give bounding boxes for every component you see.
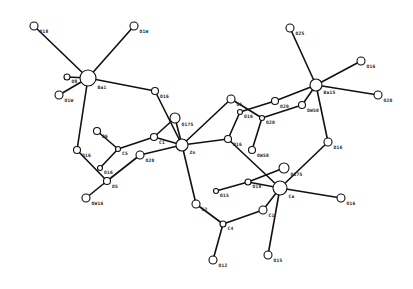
- atom-label: O5: [112, 184, 118, 189]
- atom-label: O15: [220, 193, 229, 198]
- atom-o16: [299, 102, 306, 109]
- atom-o1: [30, 22, 38, 30]
- atom-label: OW50: [257, 153, 269, 158]
- atom-label: O12: [219, 263, 228, 268]
- atom-c1: [116, 147, 121, 152]
- atom-o5: [152, 88, 159, 95]
- atom-label: O5: [237, 102, 243, 107]
- atom-label: O17S: [291, 172, 303, 177]
- atom-label: O16: [82, 153, 91, 158]
- atom-o3: [64, 74, 70, 80]
- atom-o17: [249, 147, 256, 154]
- atom-label: O20: [266, 120, 275, 125]
- atom-o12: [170, 113, 180, 123]
- atom-o18: [286, 24, 294, 32]
- atom-label: O8: [72, 79, 78, 84]
- bond-m1-o6: [77, 78, 88, 150]
- atom-o15: [272, 98, 279, 105]
- atom-label: O16: [367, 64, 376, 69]
- atom-o27: [264, 251, 272, 259]
- atom-label: C2: [202, 207, 208, 212]
- atom-m1: [80, 70, 96, 86]
- atom-o26: [209, 256, 217, 264]
- atom-label: O16: [244, 114, 253, 119]
- atom-layer: [30, 22, 382, 264]
- atom-label: O1W: [65, 98, 74, 103]
- atom-label: O2S: [296, 31, 305, 36]
- atom-label: Zn: [190, 150, 196, 155]
- atom-label: OW50: [307, 108, 319, 113]
- atom-o8: [98, 166, 103, 171]
- atom-o20: [374, 91, 382, 99]
- atom-o23: [214, 189, 219, 194]
- molecular-structure-diagram: Ba1O18O1WO8O1WO16O16C5O6O16O5OW16O20C1O1…: [0, 0, 413, 289]
- atom-c6: [259, 206, 267, 214]
- atom-label: C1: [269, 213, 275, 218]
- atom-m2: [176, 139, 188, 151]
- atom-label: O16: [104, 170, 113, 175]
- bond-c7-o26: [213, 224, 223, 260]
- atom-c4: [260, 116, 265, 121]
- atom-label: O6: [102, 134, 108, 139]
- bond-m2-o14: [182, 139, 228, 145]
- bond-c7-c6: [223, 210, 263, 224]
- atom-label: O20: [384, 98, 393, 103]
- atom-label: O17S: [182, 122, 194, 127]
- atom-label: O16: [334, 145, 343, 150]
- atom-o11: [136, 151, 144, 159]
- atom-o25: [192, 200, 200, 208]
- atom-o4: [55, 91, 63, 99]
- atom-label: C5: [122, 151, 128, 156]
- structure-canvas: Ba1O18O1WO8O1WO16O16C5O6O16O5OW16O20C1O1…: [0, 0, 413, 289]
- atom-label: O20: [146, 158, 155, 163]
- bond-m3-o19: [316, 61, 361, 85]
- atom-o6: [74, 147, 81, 154]
- atom-c3: [238, 110, 243, 115]
- atom-label: O1S: [274, 258, 283, 263]
- atom-label: Ba1S: [324, 90, 336, 95]
- atom-label: O18: [40, 29, 49, 34]
- atom-o19: [357, 57, 365, 65]
- atom-o14: [225, 136, 232, 143]
- atom-label: OW16: [92, 201, 104, 206]
- label-layer: Ba1O18O1WO8O1WO16O16C5O6O16O5OW16O20C1O1…: [40, 29, 393, 268]
- atom-label: O20: [280, 104, 289, 109]
- bond-o22-c5: [248, 168, 284, 182]
- bond-c3-o14: [228, 112, 240, 139]
- atom-label: Ca: [289, 194, 295, 199]
- atom-label: O16: [233, 142, 242, 147]
- bond-o9-o11: [107, 155, 140, 181]
- atom-label: O16: [160, 94, 169, 99]
- atom-o13: [227, 95, 235, 103]
- atom-label: O1W: [140, 29, 149, 34]
- atom-o9: [104, 178, 111, 185]
- atom-m4: [273, 181, 287, 195]
- atom-label: O18: [253, 184, 262, 189]
- atom-label: C1: [159, 140, 165, 145]
- atom-label: C4: [228, 226, 234, 231]
- atom-label: Ba1: [98, 85, 107, 90]
- atom-o21: [324, 138, 332, 146]
- atom-o7: [94, 128, 101, 135]
- bond-c1-o8: [100, 149, 118, 168]
- atom-m3: [310, 79, 322, 91]
- bond-o25-c7: [196, 204, 223, 224]
- bond-c4-o17: [252, 118, 262, 150]
- atom-o22: [279, 163, 289, 173]
- atom-o2: [130, 22, 138, 30]
- atom-c7: [220, 221, 226, 227]
- bond-m1-o2: [88, 26, 134, 78]
- bond-c1-c2: [118, 137, 154, 149]
- atom-o24: [337, 194, 345, 202]
- atom-label: O16: [347, 201, 356, 206]
- bond-o23-c5: [216, 182, 248, 191]
- bond-c3-o15: [240, 101, 275, 112]
- atom-c5: [245, 179, 251, 185]
- bond-m3-o18: [290, 28, 316, 85]
- atom-o10: [82, 194, 90, 202]
- atom-c2: [151, 134, 158, 141]
- bond-m4-o27: [268, 188, 280, 255]
